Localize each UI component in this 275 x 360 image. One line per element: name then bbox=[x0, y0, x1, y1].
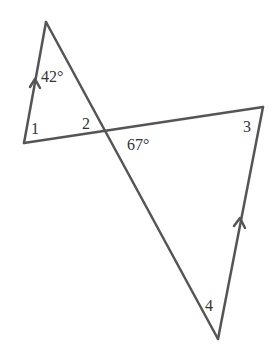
angle-label-2: 2 bbox=[82, 115, 90, 132]
angle-label-3: 3 bbox=[243, 118, 251, 135]
angle-label-42: 42° bbox=[41, 68, 63, 85]
angle-label-1: 1 bbox=[31, 120, 39, 137]
transversal-top-bottom bbox=[46, 22, 218, 339]
geometry-diagram: 42° 1 2 67° 3 4 bbox=[0, 0, 275, 360]
angle-label-4: 4 bbox=[205, 297, 213, 314]
segment-right-bottom bbox=[218, 107, 263, 339]
angle-label-67: 67° bbox=[127, 136, 149, 153]
